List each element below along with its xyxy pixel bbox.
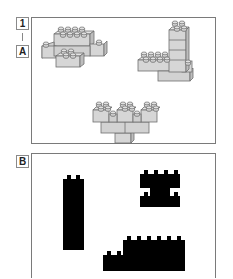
tall-column-silhouette: [63, 175, 84, 250]
section-a-label: A: [16, 45, 29, 58]
panel-a: [31, 17, 216, 144]
panel-b: [31, 153, 216, 278]
label-connector-line: [22, 33, 23, 41]
section-b-label: B: [16, 155, 29, 168]
stepped-wall-silhouette: [103, 236, 185, 271]
panel-a-illustration: [32, 18, 217, 145]
h-shape-silhouette: [140, 170, 180, 207]
step-number-label: 1: [16, 17, 29, 30]
triple-stack-model: [93, 107, 160, 143]
panel-b-illustration: [32, 154, 217, 279]
